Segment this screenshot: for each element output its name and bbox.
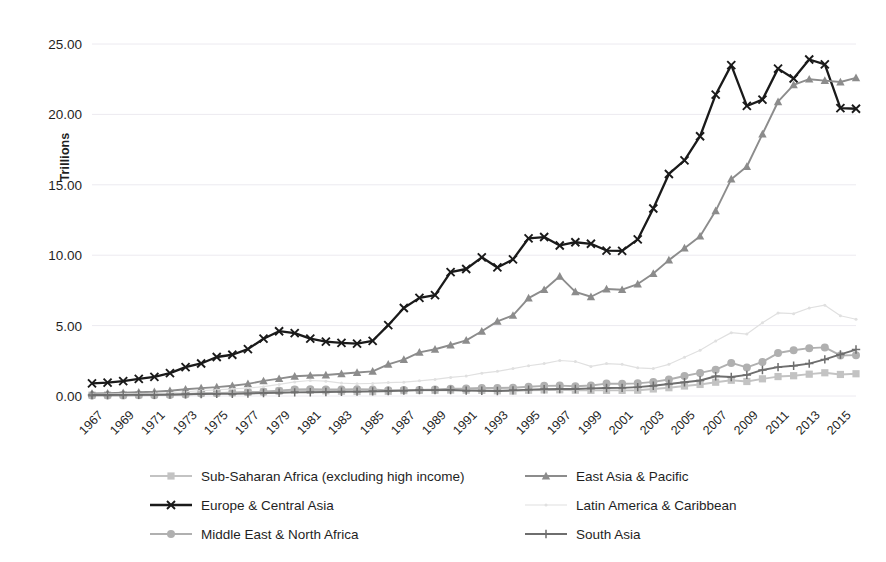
data-point-marker [758, 366, 766, 374]
data-point-marker [806, 371, 813, 378]
data-point-marker [823, 304, 826, 307]
data-point-marker [509, 255, 517, 263]
data-point-marker [556, 272, 564, 280]
data-point-marker [246, 386, 249, 389]
series-line [92, 78, 856, 394]
data-point-marker [589, 365, 592, 368]
data-point-marker [387, 381, 390, 384]
legend-label: Sub-Saharan Africa (excluding high incom… [201, 469, 464, 484]
data-point-marker [699, 349, 702, 352]
data-point-marker [727, 359, 735, 367]
data-point-marker [743, 371, 751, 379]
data-point-marker [527, 364, 530, 367]
data-point-marker [852, 73, 860, 81]
data-point-marker [743, 162, 751, 170]
data-point-marker [524, 294, 532, 302]
data-point-marker [324, 380, 327, 383]
data-point-marker [761, 321, 764, 324]
data-point-marker [478, 253, 486, 261]
series-lines [88, 55, 860, 399]
legend-label: South Asia [576, 527, 641, 542]
data-point-marker [855, 318, 858, 321]
data-point-marker [790, 372, 797, 379]
data-point-marker [792, 312, 795, 315]
legend-label: Middle East & North Africa [201, 527, 359, 542]
chart-container: Trillions 0.005.0010.0015.0020.0025.00 1… [0, 0, 886, 562]
data-point-marker [542, 530, 550, 538]
legend-marker-icon [525, 469, 567, 483]
legend-marker-icon [525, 498, 567, 512]
data-point-marker [743, 363, 751, 371]
data-point-marker [605, 362, 608, 365]
data-point-marker [758, 130, 766, 138]
data-point-marker [758, 358, 766, 366]
legend-item[interactable]: Europe & Central Asia [150, 495, 334, 515]
data-point-marker [821, 343, 829, 351]
legend-item[interactable]: Sub-Saharan Africa (excluding high incom… [150, 466, 464, 486]
data-point-marker [356, 382, 359, 385]
data-point-marker [400, 304, 408, 312]
legend-label: Latin America & Caribbean [576, 498, 737, 513]
data-point-marker [480, 372, 483, 375]
data-point-marker [683, 356, 686, 359]
legend-item[interactable]: Latin America & Caribbean [525, 495, 737, 515]
data-point-marker [511, 367, 514, 370]
data-point-marker [478, 327, 486, 335]
data-point-marker [465, 375, 468, 378]
data-point-marker [167, 530, 175, 538]
data-point-marker [680, 156, 688, 164]
data-point-marker [774, 373, 781, 380]
data-point-marker [434, 378, 437, 381]
legend-marker-icon [150, 469, 192, 483]
data-point-marker [852, 370, 859, 377]
data-point-marker [636, 366, 639, 369]
data-point-marker [774, 363, 782, 371]
data-point-marker [462, 336, 470, 344]
data-point-marker [340, 382, 343, 385]
data-point-marker [774, 349, 782, 357]
legend-item[interactable]: South Asia [525, 524, 641, 544]
data-point-marker [839, 314, 842, 317]
data-point-marker [418, 379, 421, 382]
data-point-marker [574, 360, 577, 363]
data-point-marker [821, 355, 829, 363]
data-point-marker [621, 363, 624, 366]
data-point-marker [774, 65, 782, 73]
data-point-marker [293, 380, 296, 383]
data-point-marker [558, 359, 561, 362]
data-point-marker [493, 263, 501, 271]
data-point-marker [808, 307, 811, 310]
legend-marker-icon [525, 527, 567, 541]
data-point-marker [402, 381, 405, 384]
legend-item[interactable]: Middle East & North Africa [150, 524, 359, 544]
data-point-marker [652, 367, 655, 370]
data-point-marker [262, 385, 265, 388]
data-point-marker [711, 207, 719, 215]
data-point-marker [634, 235, 642, 243]
series-east-asia-pacific [88, 73, 860, 396]
data-point-marker [649, 204, 657, 212]
data-point-marker [667, 363, 670, 366]
data-point-marker [777, 311, 780, 314]
data-point-marker [278, 383, 281, 386]
data-point-marker [449, 376, 452, 379]
legend-item[interactable]: East Asia & Pacific [525, 466, 689, 486]
data-point-marker [714, 340, 717, 343]
chart-legend: Sub-Saharan Africa (excluding high incom… [150, 466, 850, 546]
data-point-marker [634, 280, 642, 288]
data-point-marker [665, 170, 673, 178]
data-point-marker [167, 472, 174, 479]
legend-label: East Asia & Pacific [576, 469, 689, 484]
data-point-marker [821, 369, 828, 376]
gridlines [92, 44, 856, 396]
data-point-marker [759, 375, 766, 382]
data-point-marker [260, 335, 268, 343]
data-point-marker [805, 359, 813, 367]
data-point-marker [745, 333, 748, 336]
legend-label: Europe & Central Asia [201, 498, 334, 513]
data-point-marker [730, 331, 733, 334]
data-point-marker [805, 344, 813, 352]
data-point-marker [496, 370, 499, 373]
data-point-marker [837, 371, 844, 378]
data-point-marker [309, 379, 312, 382]
